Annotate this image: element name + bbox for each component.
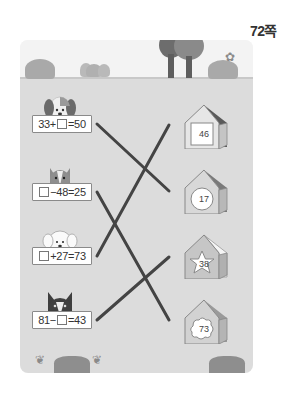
house-value: 17: [191, 188, 217, 210]
worksheet-panel: ✿ 33+=50 −48=25 +27=73 81−=43: [20, 40, 253, 373]
doghouse-star: 38: [183, 233, 229, 279]
bush-icon: [209, 356, 245, 373]
blank-box: [57, 119, 67, 129]
sprout-icon: ❦: [92, 353, 102, 367]
doghouse-cloud: 73: [183, 298, 229, 344]
house-value: 73: [191, 318, 217, 340]
equation-card: +27=73: [32, 247, 92, 265]
equation-card: 81−=43: [32, 311, 92, 329]
sprout-icon: ❦: [35, 353, 45, 367]
house-value: 46: [191, 123, 217, 145]
equation-card: −48=25: [32, 183, 92, 201]
doghouse-square: 46: [183, 103, 229, 149]
house-value: 38: [191, 253, 217, 275]
equation-card: 33+=50: [32, 115, 92, 133]
doghouse-circle: 17: [183, 168, 229, 214]
blank-box: [39, 251, 49, 261]
page-number: 72쪽: [250, 20, 277, 40]
bush-icon: [54, 356, 90, 373]
blank-box: [57, 315, 67, 325]
blank-box: [39, 187, 49, 197]
